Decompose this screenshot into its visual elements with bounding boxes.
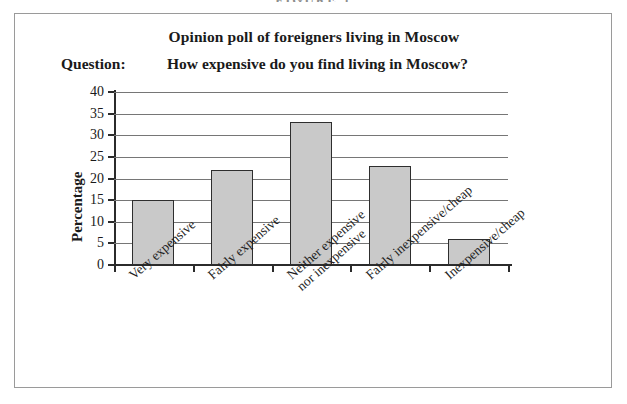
figure-frame: Opinion poll of foreigners living in Mos…	[14, 13, 612, 388]
question-text: How expensive do you find living in Mosc…	[167, 55, 468, 73]
y-axis-tick-label: 0	[72, 258, 104, 272]
y-axis-tick-label: 15	[72, 193, 104, 207]
y-axis-tick	[108, 242, 114, 244]
y-axis-tick	[108, 221, 114, 223]
y-axis-tick-label: 35	[72, 107, 104, 121]
question-row: Question: How expensive do you find livi…	[15, 55, 613, 77]
y-axis-tick	[108, 134, 114, 136]
y-axis-title: Percentage	[53, 142, 71, 242]
y-axis-tick	[108, 113, 114, 115]
y-axis-tick	[108, 91, 114, 93]
figure-caption-sliver: FIGURE 1	[0, 0, 627, 2]
x-axis-labels: Very expensiveFairly expensiveNeither ex…	[114, 267, 534, 367]
gridline	[114, 114, 508, 115]
y-axis-tick-label: 10	[72, 215, 104, 229]
y-axis-tick-label: 40	[72, 85, 104, 99]
y-axis-tick-label: 25	[72, 150, 104, 164]
gridline	[114, 92, 508, 93]
y-axis-tick-label: 5	[72, 236, 104, 250]
y-axis-tick-label: 20	[72, 172, 104, 186]
y-axis-tick	[108, 156, 114, 158]
y-axis-tick	[108, 178, 114, 180]
y-axis-tick-label: 30	[72, 128, 104, 142]
y-axis-tick	[108, 199, 114, 201]
question-label: Question:	[61, 55, 126, 73]
chart-title: Opinion poll of foreigners living in Mos…	[15, 28, 613, 46]
